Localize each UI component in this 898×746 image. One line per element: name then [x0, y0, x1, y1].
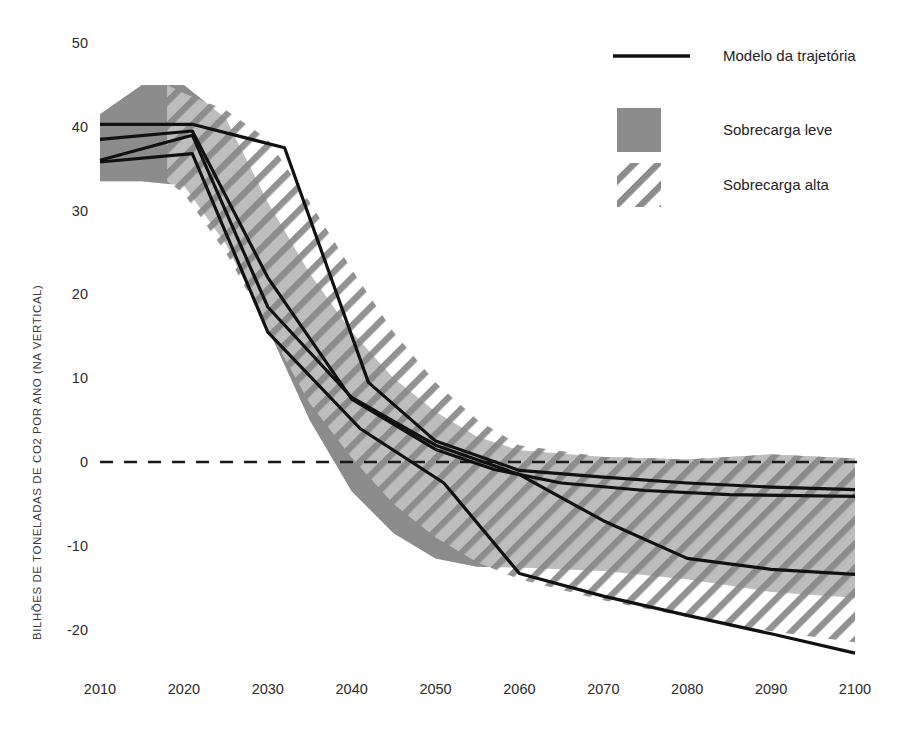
legend-label-modelo: Modelo da trajetória: [723, 47, 856, 64]
legend-label-sobrecarga-alta: Sobrecarga alta: [723, 176, 830, 193]
x-tick-2070: 2070: [587, 681, 619, 697]
legend-label-sobrecarga-leve: Sobrecarga leve: [723, 121, 832, 138]
x-axis-tick-labels: 2010202020302040205020602070208020902100: [84, 681, 871, 697]
x-tick-2060: 2060: [503, 681, 535, 697]
x-tick-2090: 2090: [755, 681, 787, 697]
chart-legend: Modelo da trajetória Sobrecarga leve Sob…: [613, 47, 856, 207]
y-tick-40: 40: [72, 119, 88, 135]
y-tick-0: 0: [80, 454, 88, 470]
y-tick-20: 20: [72, 286, 88, 302]
x-tick-2020: 2020: [168, 681, 200, 697]
y-tick--10: -10: [67, 538, 88, 554]
x-tick-2100: 2100: [839, 681, 871, 697]
x-tick-2080: 2080: [671, 681, 703, 697]
chart-svg: 50403020100-10-20 2010202020302040205020…: [0, 0, 898, 746]
legend-swatch-fill: [617, 108, 661, 152]
x-tick-2050: 2050: [419, 681, 451, 697]
y-axis-title: BILHÕES DE TONELADAS DE CO2 POR ANO (NA …: [31, 285, 43, 640]
y-tick-30: 30: [72, 203, 88, 219]
x-tick-2010: 2010: [84, 681, 116, 697]
legend-swatch-hatch: [617, 163, 661, 207]
y-tick--20: -20: [67, 622, 88, 638]
co2-trajectory-chart: 50403020100-10-20 2010202020302040205020…: [0, 0, 898, 746]
x-tick-2030: 2030: [252, 681, 284, 697]
y-axis-tick-labels: 50403020100-10-20: [67, 35, 88, 638]
y-tick-10: 10: [72, 370, 88, 386]
x-tick-2040: 2040: [336, 681, 368, 697]
y-tick-50: 50: [72, 35, 88, 51]
